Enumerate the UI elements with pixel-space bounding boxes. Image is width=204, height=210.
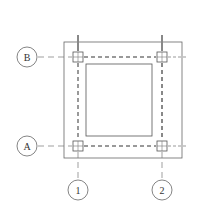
structural-plan-diagram: B A 1 2 <box>0 0 204 210</box>
column-a1 <box>73 141 83 151</box>
column-b1 <box>73 52 83 62</box>
inner-opening-outline <box>86 64 152 136</box>
axis-bubble-1: 1 <box>68 180 88 200</box>
axis-label-1: 1 <box>76 185 81 196</box>
axis-label-a: A <box>23 141 31 152</box>
axis-bubble-a: A <box>17 136 37 156</box>
axis-bubble-2: 2 <box>152 180 172 200</box>
axis-bubble-b: B <box>17 47 37 67</box>
column-b2 <box>157 52 167 62</box>
axis-label-b: B <box>24 52 31 63</box>
axis-label-2: 2 <box>160 185 165 196</box>
column-a2 <box>157 141 167 151</box>
